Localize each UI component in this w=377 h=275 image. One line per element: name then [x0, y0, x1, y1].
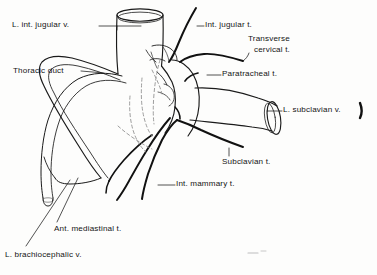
label-transverse-cervical-line1: Transverse — [248, 34, 290, 43]
label-int-jugular-t: Int. jugular t. — [205, 20, 252, 31]
anatomical-figure: L. int. jugular v. Int. jugular t. Trans… — [0, 0, 377, 275]
internal-jugular-trunk-line — [169, 8, 196, 62]
accessory-trunk-tip — [106, 181, 109, 193]
internal-jugular-vein-shape — [116, 9, 163, 74]
label-l-subclavian-v: L. subclavian v. — [283, 105, 341, 116]
corner-mark — [360, 103, 362, 118]
stray-marks-group — [248, 103, 362, 253]
transverse-cervical-trunk-line — [180, 54, 243, 62]
hidden-vessels-dashed — [118, 60, 162, 153]
label-transverse-cervical-t: Transverse cervical t. — [248, 34, 318, 55]
trunk-venous-entry — [175, 107, 180, 119]
leader-ant-mediastinal-t — [57, 178, 78, 222]
accessory-trunk-line — [109, 135, 152, 181]
label-subclavian-t: Subclavian t. — [222, 157, 270, 168]
label-l-brachiocephalic-v: L. brachiocephalic v. — [5, 250, 82, 261]
label-l-int-jugular-v: L. int. jugular v. — [12, 20, 69, 31]
label-paratracheal-t: Paratracheal t. — [222, 69, 277, 80]
label-ant-mediastinal-t: Ant. mediastinal t. — [54, 224, 121, 235]
label-transverse-cervical-line2: cervical t. — [254, 45, 290, 56]
leader-l-brachiocephalic-v — [26, 180, 70, 246]
lymph-trunks-group — [106, 8, 243, 200]
label-int-mammary-t: Int. mammary t. — [176, 179, 235, 190]
label-thoracic-duct: Thoracic duct — [13, 66, 64, 77]
subclavian-vein-shape — [190, 88, 283, 135]
